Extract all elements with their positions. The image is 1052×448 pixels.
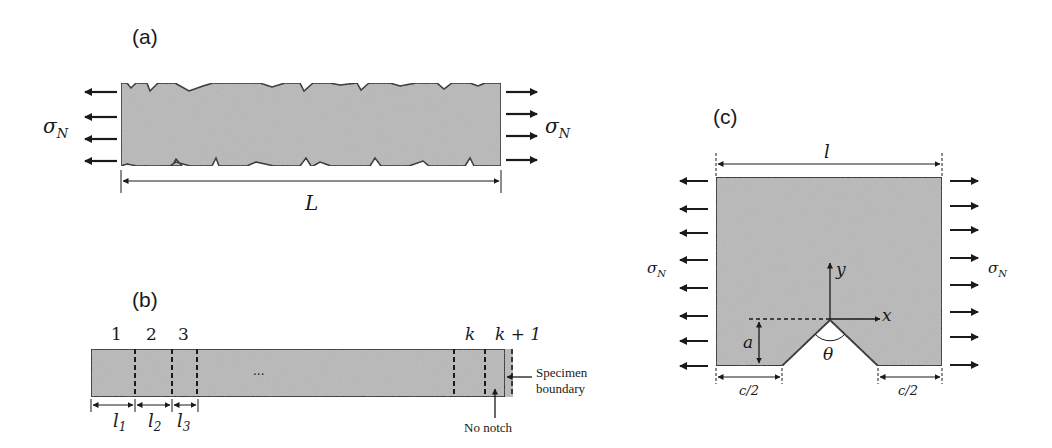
figure-canvas: (a) σN σN L (b) [0,0,1052,448]
ellipsis-b: ··· [253,368,264,382]
notch-angle-label: θ [823,344,833,364]
length-label-a: L [304,191,318,215]
no-notch-label: No notch [464,420,513,435]
segment-label-3: 3 [178,324,189,344]
length-label-l1: l1 [113,410,126,434]
length-label-l3: l3 [177,410,191,434]
panel-b: (b) ··· 1 2 3 k k + 1 l1 l2 l3 [91,288,588,435]
half-width-label-left: c/2 [739,383,759,398]
panel-c: (c) l σN σN [647,105,1008,398]
y-axis-label: y [835,259,846,279]
stress-label-right-a: σN [545,114,571,141]
x-axis-label: x [882,305,892,325]
stress-arrows-right-c [950,181,978,365]
segment-label-2: 2 [146,324,157,344]
stress-label-right-c: σN [988,259,1008,279]
width-label-c: l [824,141,830,162]
panel-c-label: (c) [713,105,738,128]
stress-arrows-left-a [85,92,117,161]
notch-depth-label: a [743,332,753,352]
stress-label-left-c: σN [647,259,667,279]
notch-angle-arc [815,334,845,341]
half-width-dimensions [716,368,942,384]
segment-label-k: k [465,324,475,344]
segment-label-1: 1 [111,324,122,344]
length-label-l2: l2 [148,410,161,434]
specimen-boundary-label-line1: Specimen [536,365,588,380]
panel-a-label: (a) [132,25,158,48]
segment-label-k-plus-1: k + 1 [495,324,541,344]
half-width-label-right: c/2 [898,383,918,398]
bar-specimen-b [91,349,505,397]
stress-label-left-a: σN [43,114,69,141]
stress-arrows-left-c [680,181,708,366]
rough-specimen-a [121,83,501,166]
length-dimension-a [121,170,501,193]
stress-arrows-right-a [506,92,537,160]
specimen-boundary-label-line2: boundary [536,381,586,396]
panel-b-label: (b) [132,288,158,311]
panel-a: (a) σN σN L [43,25,571,215]
